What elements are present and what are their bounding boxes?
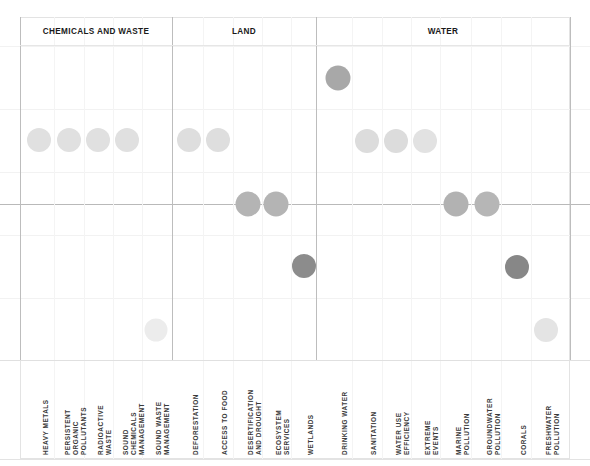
section-divider-3 xyxy=(570,17,571,360)
axis-label-line: DRINKING WATER xyxy=(341,363,349,455)
data-point-freshwater-pollution[interactable] xyxy=(534,318,558,342)
section-divider-2 xyxy=(316,17,317,360)
axis-label-sound-waste-management: SOUND WASTEMANAGEMENT xyxy=(155,363,181,455)
axis-label-line: EVENTS xyxy=(432,363,440,455)
axis-label-line: POLLUTION xyxy=(553,363,561,455)
axis-label-line: MANAGEMENT xyxy=(138,363,146,455)
axis-label-persistent-organic-pollutants: PERSISTENTORGANICPOLLUTANTS xyxy=(64,363,90,455)
data-point-heavy-metals[interactable] xyxy=(27,128,51,152)
axis-label-line: WETLANDS xyxy=(307,363,315,455)
data-point-wetlands[interactable] xyxy=(292,254,316,278)
axis-label-line: MARINE xyxy=(455,363,463,455)
axis-label-line: FRESHWATER xyxy=(545,363,553,455)
axis-label-groundwater-pollution: GROUNDWATERPOLLUTION xyxy=(486,363,512,455)
data-point-radioactive-waste[interactable] xyxy=(86,128,110,152)
group-label-land: LAND xyxy=(172,17,316,46)
data-point-marine-pollution[interactable] xyxy=(444,192,469,217)
axis-label-desertification-and-drought: DESERTIFICATIONAND DROUGHT xyxy=(247,363,273,455)
data-point-sound-chemicals-management[interactable] xyxy=(115,128,139,152)
axis-label-rule-top xyxy=(0,360,590,361)
data-point-deforestation[interactable] xyxy=(177,128,201,152)
axis-label-line: HEAVY METALS xyxy=(42,363,50,455)
data-point-sanitation[interactable] xyxy=(355,129,379,153)
axis-label-line: SERVICES xyxy=(283,363,291,455)
axis-label-line: EFFICIENCY xyxy=(403,363,411,455)
section-divider-0 xyxy=(20,17,21,360)
axis-label-sanitation: SANITATION xyxy=(370,363,396,455)
axis-label-line: EXTREME xyxy=(424,363,432,455)
axis-label-line: POLLUTION xyxy=(463,363,471,455)
axis-label-corals: CORALS xyxy=(520,363,546,455)
axis-label-line: SANITATION xyxy=(370,363,378,455)
axis-label-extreme-events: EXTREMEEVENTS xyxy=(424,363,450,455)
axis-label-line: DEFORESTATION xyxy=(192,363,200,455)
axis-label-access-to-food: ACCESS TO FOOD xyxy=(221,363,247,455)
data-point-water-use-efficiency[interactable] xyxy=(384,129,408,153)
axis-label-line: SOUND xyxy=(122,363,130,455)
data-point-sound-waste-management[interactable] xyxy=(145,319,168,342)
data-point-drinking-water[interactable] xyxy=(326,66,351,91)
axis-label-line: CHEMICALS xyxy=(130,363,138,455)
axis-label-rule-bottom xyxy=(0,459,590,460)
data-point-groundwater-pollution[interactable] xyxy=(475,192,500,217)
axis-label-line: POLLUTANTS xyxy=(80,363,88,455)
axis-label-line: SOUND WASTE xyxy=(155,363,163,455)
axis-label-wetlands: WETLANDS xyxy=(307,363,333,455)
axis-label-line: CORALS xyxy=(520,363,528,455)
group-label-chemicals-and-waste: CHEMICALS AND WASTE xyxy=(20,17,172,46)
axis-label-line: AND DROUGHT xyxy=(255,363,263,455)
axis-label-marine-pollution: MARINEPOLLUTION xyxy=(455,363,481,455)
data-point-access-to-food[interactable] xyxy=(206,128,230,152)
axis-label-line: WATER USE xyxy=(395,363,403,455)
axis-label-water-use-efficiency: WATER USEEFFICIENCY xyxy=(395,363,421,455)
scatter-chart: CHEMICALS AND WASTELANDWATER HEAVY METAL… xyxy=(0,0,590,466)
axis-label-sound-chemicals-management: SOUNDCHEMICALSMANAGEMENT xyxy=(122,363,148,455)
axis-label-radioactive-waste: RADIOACTIVEWASTE xyxy=(97,363,123,455)
section-divider-1 xyxy=(172,17,173,360)
axis-label-line: ECOSYSTEM xyxy=(275,363,283,455)
axis-label-line: POLLUTION xyxy=(494,363,502,455)
data-point-extreme-events[interactable] xyxy=(413,129,437,153)
axis-label-line: DESERTIFICATION xyxy=(247,363,255,455)
axis-label-line: WASTE xyxy=(105,363,113,455)
data-point-desertification-and-drought[interactable] xyxy=(236,192,261,217)
axis-label-line: GROUNDWATER xyxy=(486,363,494,455)
axis-label-line: MANAGEMENT xyxy=(163,363,171,455)
axis-label-line: ORGANIC xyxy=(72,363,80,455)
group-label-water: WATER xyxy=(316,17,570,46)
axis-label-line: RADIOACTIVE xyxy=(97,363,105,455)
axis-label-line: PERSISTENT xyxy=(64,363,72,455)
axis-label-freshwater-pollution: FRESHWATERPOLLUTION xyxy=(545,363,571,455)
data-point-ecosystem-services[interactable] xyxy=(264,192,289,217)
data-point-persistent-organic-pollutants[interactable] xyxy=(57,128,81,152)
axis-label-ecosystem-services: ECOSYSTEMSERVICES xyxy=(275,363,301,455)
axis-label-deforestation: DEFORESTATION xyxy=(192,363,218,455)
data-point-corals[interactable] xyxy=(505,255,529,279)
axis-label-line: ACCESS TO FOOD xyxy=(221,363,229,455)
axis-label-drinking-water: DRINKING WATER xyxy=(341,363,367,455)
